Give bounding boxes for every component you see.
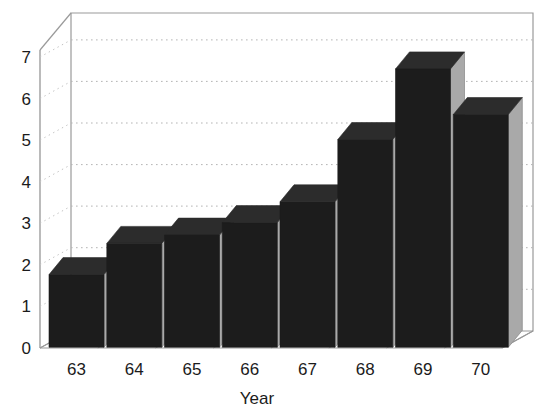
x-tick-label-65: 65 [183,360,202,379]
chart-canvas: 0 1 2 3 4 5 6 7 63 64 65 66 67 68 69 70 … [0,0,542,411]
x-tick-label-64: 64 [125,360,144,379]
bar-70-side-face [508,98,522,348]
y-tick-label-5: 5 [22,131,31,150]
x-tick-label-67: 67 [298,360,317,379]
bar-65-front-face [165,235,220,347]
bar-67-front-face [280,202,335,347]
y-tick-label-2: 2 [22,256,31,275]
bar-chart-figure: 0 1 2 3 4 5 6 7 63 64 65 66 67 68 69 70 … [0,0,542,411]
bar-69-front-face [396,69,451,347]
y-tick-label-7: 7 [22,48,31,67]
x-tick-label-68: 68 [356,360,375,379]
x-tick-label-70: 70 [471,360,490,379]
x-tick-label-63: 63 [67,360,86,379]
y-tick-label-0: 0 [22,339,31,358]
y-tick-label-6: 6 [22,90,31,109]
bar-66-front-face [222,223,277,348]
bar-64-front-face [107,243,162,347]
y-tick-label-3: 3 [22,214,31,233]
y-tick-label-1: 1 [22,297,31,316]
bar-63-front-face [49,275,104,348]
x-tick-label-69: 69 [414,360,433,379]
bar-70-front-face [453,115,508,348]
bar-70[interactable] [453,98,522,348]
y-tick-label-4: 4 [22,173,31,192]
bar-68-front-face [338,140,393,348]
x-tick-label-66: 66 [240,360,259,379]
x-axis-title: Year [240,389,275,408]
